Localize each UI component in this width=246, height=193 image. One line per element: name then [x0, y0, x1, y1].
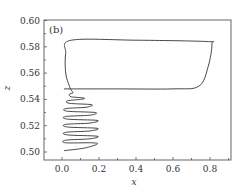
x-tick-label: 0.0	[55, 164, 70, 174]
y-axis: 0.500.520.540.560.580.60	[20, 16, 47, 158]
y-tick-label: 0.58	[20, 42, 40, 52]
trajectory-series	[63, 39, 214, 151]
y-tick-label: 0.60	[20, 16, 40, 26]
phase-portrait-chart: 0.00.20.40.60.8 0.500.520.540.560.580.60…	[0, 0, 246, 193]
y-tick-label: 0.52	[20, 121, 40, 131]
x-tick-label: 0.8	[203, 164, 218, 174]
y-tick-label: 0.54	[20, 94, 40, 104]
y-tick-label: 0.50	[20, 147, 40, 157]
x-tick-label: 0.2	[92, 164, 106, 174]
x-tick-label: 0.4	[129, 164, 144, 174]
y-axis-label: z	[2, 85, 12, 91]
trajectory-line	[63, 39, 214, 151]
y-tick-label: 0.56	[20, 68, 40, 78]
x-axis-label: x	[131, 177, 136, 187]
panel-label: (b)	[49, 24, 63, 35]
x-tick-label: 0.6	[166, 164, 181, 174]
